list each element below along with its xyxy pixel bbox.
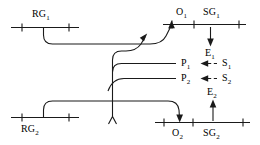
- trunk-bottom-fork: [109, 117, 117, 125]
- arrowhead-e1-down: [207, 39, 214, 47]
- label-e1: E1: [205, 48, 215, 61]
- arrowhead-into-o2: [176, 115, 183, 123]
- label-s1: S1: [222, 58, 231, 71]
- label-s2: S2: [222, 73, 231, 86]
- branch-to-p1: [113, 64, 177, 73]
- label-rg1: RG1: [32, 9, 50, 22]
- label-p2: P2: [181, 73, 190, 86]
- label-p1: P1: [181, 58, 190, 71]
- label-e2: E2: [207, 87, 217, 100]
- arrowhead-s2-left: [201, 75, 209, 82]
- branch-to-p2: [108, 79, 176, 92]
- arrowhead-s1-left: [201, 60, 209, 67]
- label-o1: O1: [176, 7, 187, 20]
- trunk-vertical: [113, 37, 146, 116]
- label-o2: O2: [172, 128, 183, 141]
- label-sg2: SG2: [203, 128, 220, 141]
- label-sg1: SG1: [203, 7, 220, 20]
- lead-rg2-to-o2: [44, 101, 180, 118]
- diagram-canvas: RG1 RG2 O1 SG1 O2 SG2 P1 P2 S1 S2 E1 E2: [0, 0, 260, 145]
- arrowhead-trunk-top: [140, 34, 147, 42]
- arrowhead-e2-up: [210, 100, 217, 108]
- label-rg2: RG2: [21, 124, 39, 137]
